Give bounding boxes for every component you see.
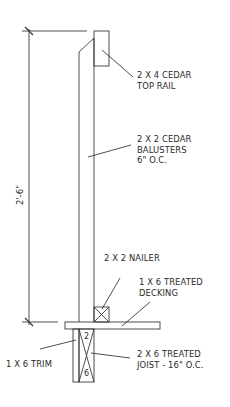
decking-plank <box>65 322 160 329</box>
callout-top-rail-line1: 2 X 4 CEDAR <box>137 70 191 81</box>
joist-mark-top: 2 <box>84 332 89 343</box>
callout-joist: 2 X 6 TREATED JOIST - 16" O.C. <box>137 349 204 370</box>
callout-decking-line1: 1 X 6 TREATED <box>139 277 203 288</box>
baluster <box>79 38 94 322</box>
trim-board <box>73 329 79 382</box>
callout-balusters-line2: BALUSTERS <box>137 145 191 156</box>
callout-balusters: 2 X 2 CEDAR BALUSTERS 6" O.C. <box>137 134 191 166</box>
callout-top-rail-line2: TOP RAIL <box>137 81 191 92</box>
callout-trim: 1 X 6 TRIM <box>6 359 52 370</box>
leader-nailer <box>102 278 120 309</box>
callout-nailer: 2 X 2 NAILER <box>104 253 160 264</box>
dimension-line <box>22 27 87 326</box>
railing-section-drawing <box>0 0 230 407</box>
top-rail <box>94 31 109 66</box>
leader-top-rail <box>102 50 133 77</box>
callout-decking: 1 X 6 TREATED DECKING <box>139 277 203 298</box>
callout-nailer-line1: 2 X 2 NAILER <box>104 253 160 264</box>
callout-balusters-line3: 6" O.C. <box>137 155 191 166</box>
leader-trim <box>40 340 76 349</box>
callout-joist-line2: JOIST - 16" O.C. <box>137 360 204 371</box>
callout-trim-line1: 1 X 6 TRIM <box>6 359 52 370</box>
dimension-label: 2'-6" <box>15 185 25 205</box>
callout-top-rail: 2 X 4 CEDAR TOP RAIL <box>137 70 191 91</box>
callout-joist-line1: 2 X 6 TREATED <box>137 349 204 360</box>
joist-mark-bottom: 6 <box>84 369 89 380</box>
callout-balusters-line1: 2 X 2 CEDAR <box>137 134 191 145</box>
nailer <box>94 307 109 322</box>
callout-decking-line2: DECKING <box>139 288 203 299</box>
leader-joist <box>91 353 130 358</box>
